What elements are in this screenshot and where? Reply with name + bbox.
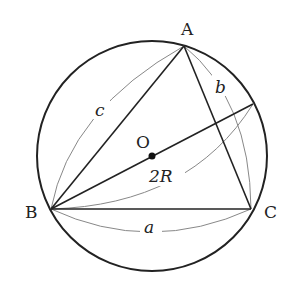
side-label-c: c <box>95 100 105 120</box>
vertex-label-b: B <box>25 202 38 222</box>
side-ac <box>184 46 251 209</box>
diameter-label-2r: 2R <box>148 166 173 186</box>
center-point <box>149 153 156 160</box>
circumcircle-diagram: A B C O c b a 2R <box>0 0 292 298</box>
center-label-o: O <box>136 132 150 152</box>
side-label-a: a <box>144 217 154 237</box>
vertex-label-a: A <box>180 19 194 39</box>
vertex-label-c: C <box>264 202 277 222</box>
side-label-b: b <box>215 77 226 97</box>
